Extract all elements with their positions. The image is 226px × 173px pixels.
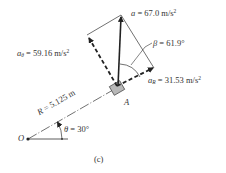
point-O-label: O bbox=[18, 134, 24, 143]
a-R-value: 31.53 m/s bbox=[165, 75, 199, 85]
a-theta-vector bbox=[89, 38, 117, 86]
point-A-label: A bbox=[124, 98, 129, 107]
a-theta-exponent: 2 bbox=[67, 48, 70, 54]
a-R-label: aR = 31.53 m/s2 bbox=[148, 76, 201, 86]
theta-eq: = bbox=[68, 124, 77, 134]
a-value: 67.0 m/s bbox=[144, 8, 173, 18]
a-R-exponent: 2 bbox=[198, 75, 201, 81]
theta-label: θ = 30° bbox=[64, 125, 89, 134]
a-eq: = bbox=[135, 8, 144, 18]
a-label: a = 67.0 m/s2 bbox=[131, 9, 176, 18]
a-exponent: 2 bbox=[174, 8, 177, 14]
a-resultant-vector bbox=[118, 17, 121, 86]
parallelogram-line-left bbox=[87, 15, 121, 35]
a-theta-eq: = bbox=[24, 48, 33, 58]
theta-angle-arc bbox=[58, 122, 63, 139]
beta-eq: = bbox=[157, 38, 166, 48]
beta-leader-line bbox=[131, 47, 145, 65]
beta-value: 61.9° bbox=[166, 38, 184, 48]
a-theta-value: 59.16 m/s bbox=[33, 48, 67, 58]
beta-label: β = 61.9° bbox=[153, 39, 185, 48]
a-R-eq: = bbox=[156, 75, 165, 85]
parallelogram-line-right bbox=[121, 15, 154, 68]
acceleration-diagram bbox=[0, 0, 226, 173]
a-theta-label: aθ = 59.16 m/s2 bbox=[17, 49, 69, 59]
figure-caption: (c) bbox=[94, 155, 103, 164]
beta-leader-line-2 bbox=[145, 43, 152, 47]
block-A bbox=[109, 81, 124, 96]
origin-point bbox=[26, 137, 29, 140]
theta-value: 30° bbox=[77, 124, 89, 134]
